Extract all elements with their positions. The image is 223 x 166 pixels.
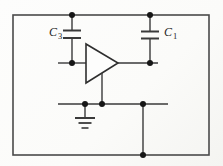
c3-label-subscript: 3: [58, 31, 62, 41]
capacitor-c1: [141, 15, 159, 63]
enclosure-box: [13, 15, 209, 155]
c1-label-subscript: 1: [173, 31, 177, 41]
junction-dot-top-left: [69, 12, 75, 18]
circuit-figure: C3 C1: [0, 0, 223, 166]
circuit-schematic: [0, 0, 223, 166]
capacitor-c1-label: C1: [164, 26, 177, 38]
capacitor-c3: [63, 15, 81, 63]
ground-symbol: [75, 104, 95, 128]
junction-dot-ground: [82, 101, 88, 107]
junction-dot-top-right: [147, 12, 153, 18]
junction-dot-output: [147, 60, 153, 66]
junction-dot-input: [69, 60, 75, 66]
c3-label-base: C: [49, 25, 58, 39]
junction-dot-bottom-edge: [140, 152, 146, 158]
capacitor-c3-label: C3: [49, 26, 62, 38]
junction-dot-rail-center: [99, 101, 105, 107]
junction-dots: [69, 12, 153, 158]
junction-dot-rail-right: [140, 101, 146, 107]
c1-label-base: C: [164, 25, 173, 39]
